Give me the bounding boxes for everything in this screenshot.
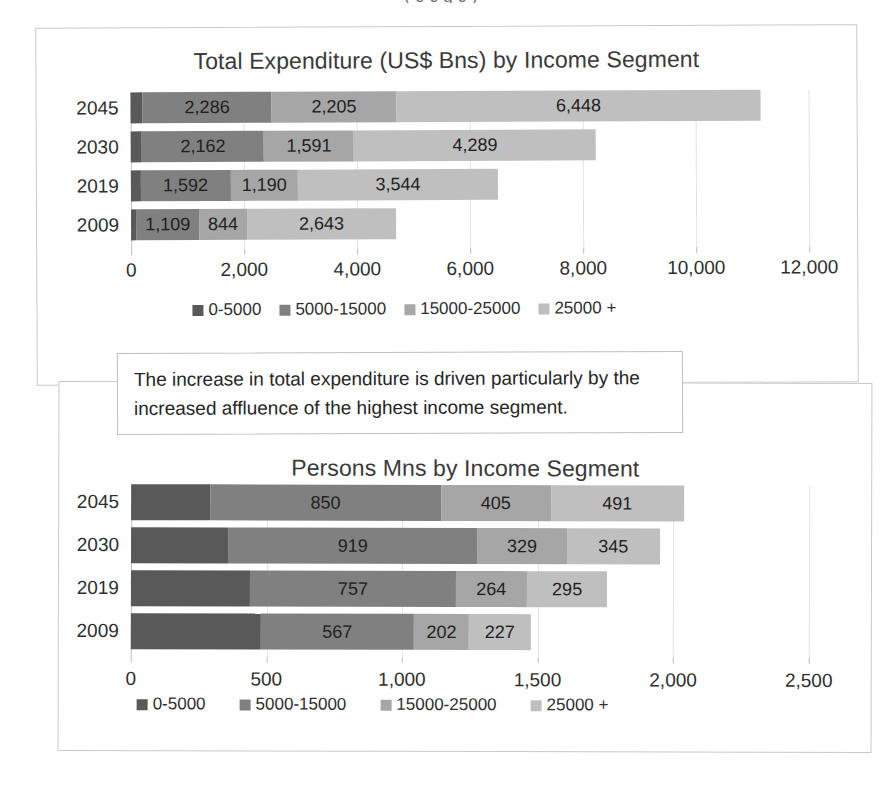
bar-row: 757264295 [131, 570, 809, 608]
tick-mark [696, 247, 697, 253]
x-tick-label: 10,000 [667, 257, 725, 279]
bar-segment-0-5000 [131, 613, 261, 649]
bar-segment-15000-25000: 2,205 [272, 91, 397, 123]
x-tick-label: 6,000 [446, 258, 494, 280]
legend-item-25000-[interactable]: 25000 + [531, 695, 609, 715]
legend-label: 15000-25000 [420, 299, 520, 319]
bar-segment-15000-25000: 1,190 [231, 170, 298, 201]
bar-segment-25000-: 227 [469, 614, 531, 650]
bar-segment-0-5000 [131, 527, 228, 563]
tick-mark [673, 658, 674, 664]
bar-segment-25000-: 2,643 [247, 208, 396, 240]
bar-segment-25000-: 491 [551, 485, 684, 521]
x-tick-label: 2,500 [785, 670, 833, 692]
bar-segment-5000-15000: 1,592 [141, 170, 231, 201]
category-label-2019: 2019 [49, 577, 119, 599]
tick-mark [809, 658, 810, 664]
bar-row: 1,1098442,643 [131, 206, 809, 240]
legend-item-5000-15000[interactable]: 5000-15000 [279, 299, 386, 319]
bar-segment-5000-15000: 567 [260, 613, 414, 649]
tick-mark [244, 249, 245, 255]
expenditure-chart-title: Total Expenditure (US$ Bns) by Income Se… [36, 45, 856, 76]
bar-segment-0-5000 [131, 170, 141, 201]
legend-item-15000-25000[interactable]: 15000-25000 [380, 695, 496, 715]
x-tick-label: 2,000 [649, 669, 697, 691]
legend-label: 0-5000 [153, 694, 206, 714]
tick-mark [131, 249, 132, 255]
x-tick-label: 500 [250, 668, 282, 690]
category-label-2045: 2045 [49, 97, 119, 119]
bar-segment-5000-15000: 850 [210, 484, 441, 521]
legend-item-0-5000[interactable]: 0-5000 [137, 694, 206, 714]
legend-label: 15000-25000 [396, 695, 496, 715]
persons-legend: 0-50005000-1500015000-2500025000 + [137, 694, 643, 715]
bar-segment-15000-25000: 264 [456, 571, 528, 607]
tick-mark [809, 246, 810, 252]
legend-swatch-icon [279, 304, 290, 315]
bar-row: 850405491 [131, 484, 809, 522]
bar-row: 2,1621,5914,289 [131, 128, 809, 162]
category-label-2045: 2045 [49, 491, 119, 513]
category-label-2030: 2030 [49, 136, 119, 158]
persons-chart-frame: Persons Mns by Income Segment 2045850405… [58, 381, 873, 753]
bar-segment-15000-25000: 1,591 [264, 130, 354, 161]
tick-mark [357, 248, 358, 254]
legend-label: 25000 + [547, 695, 609, 715]
x-tick-label: 4,000 [333, 258, 381, 280]
category-label-2009: 2009 [49, 214, 119, 236]
bar-segment-25000-: 3,544 [298, 169, 498, 201]
top-caption-fragment: ( 0 0 g 0 ) [0, 0, 882, 3]
bar-segment-5000-15000: 2,286 [142, 92, 271, 124]
bar-segment-5000-15000: 2,162 [142, 131, 264, 163]
category-label-2009: 2009 [49, 620, 119, 642]
callout-text: The increase in total expenditure is dri… [134, 363, 666, 423]
bar-segment-0-5000 [131, 131, 142, 162]
x-tick-label: 8,000 [559, 257, 607, 279]
callout-box: The increase in total expenditure is dri… [117, 351, 683, 435]
legend-item-0-5000[interactable]: 0-5000 [192, 300, 261, 320]
legend-label: 5000-15000 [295, 299, 386, 319]
legend-swatch-icon [380, 699, 391, 710]
legend-swatch-icon [192, 305, 203, 316]
tick-mark [538, 657, 539, 663]
bar-segment-15000-25000: 202 [414, 614, 469, 650]
tick-mark [470, 248, 471, 254]
bar-row: 919329345 [131, 527, 809, 565]
x-tick-label: 0 [126, 259, 137, 281]
bar-segment-15000-25000: 405 [441, 485, 551, 521]
bar-row: 2,2862,2056,448 [131, 89, 809, 123]
bar-segment-25000-: 6,448 [396, 90, 760, 123]
tick-mark [266, 656, 267, 662]
bar-row: 567202227 [131, 613, 809, 651]
x-tick-label: 2,000 [220, 259, 268, 281]
bar-segment-0-5000 [131, 570, 250, 606]
legend-swatch-icon [531, 700, 542, 711]
x-tick-label: 0 [125, 668, 136, 690]
legend-swatch-icon [404, 304, 415, 315]
bar-segment-25000-: 4,289 [354, 129, 596, 161]
legend-swatch-icon [137, 699, 148, 710]
bar-segment-25000-: 295 [527, 571, 607, 607]
expenditure-plot-area: 20452,2862,2056,44820302,1621,5914,28920… [131, 89, 810, 249]
bar-segment-25000-: 345 [567, 528, 661, 564]
expenditure-chart-frame: Total Expenditure (US$ Bns) by Income Se… [35, 24, 859, 386]
tick-mark [402, 657, 403, 663]
bar-segment-5000-15000: 757 [250, 570, 455, 607]
legend-item-15000-25000[interactable]: 15000-25000 [404, 299, 520, 320]
legend-label: 0-5000 [208, 300, 261, 320]
expenditure-legend: 0-50005000-1500015000-2500025000 + [192, 298, 634, 320]
legend-item-5000-15000[interactable]: 5000-15000 [240, 694, 347, 714]
category-label-2030: 2030 [49, 534, 119, 556]
legend-swatch-icon [240, 699, 251, 710]
x-tick-label: 12,000 [780, 256, 838, 278]
bar-segment-5000-15000: 1,109 [136, 209, 199, 240]
persons-plot-area: 2045850405491203091932934520197572642952… [131, 484, 809, 658]
legend-item-25000-[interactable]: 25000 + [538, 298, 616, 318]
x-tick-label: 1,500 [514, 669, 562, 691]
bar-segment-0-5000 [131, 92, 143, 123]
tick-mark [131, 656, 132, 662]
persons-chart-title: Persons Mns by Income Segment [59, 454, 871, 483]
category-label-2019: 2019 [49, 175, 119, 197]
bar-segment-5000-15000: 919 [228, 527, 477, 564]
legend-label: 25000 + [554, 298, 616, 318]
